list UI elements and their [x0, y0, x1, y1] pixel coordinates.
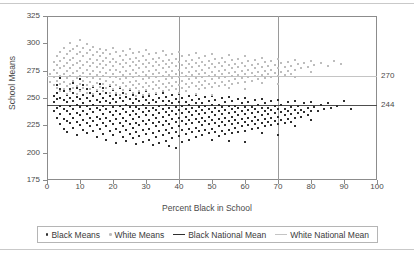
legend-item-label: White National Mean	[290, 230, 369, 240]
data-point	[132, 118, 134, 120]
data-point	[234, 78, 236, 80]
data-point	[122, 92, 124, 94]
data-point	[178, 101, 180, 103]
data-point	[310, 101, 312, 103]
data-point	[231, 100, 233, 102]
data-point	[300, 116, 302, 118]
data-point	[171, 118, 173, 120]
data-point	[105, 125, 107, 127]
data-point	[204, 96, 206, 98]
data-point	[211, 86, 213, 88]
data-point	[59, 60, 61, 62]
data-point	[125, 85, 127, 87]
data-point	[99, 48, 101, 50]
data-point	[129, 133, 131, 135]
data-point	[208, 60, 210, 62]
data-point	[175, 121, 177, 123]
data-point	[188, 54, 190, 56]
data-point	[89, 65, 91, 67]
data-point	[168, 89, 170, 91]
data-point	[175, 98, 177, 100]
data-point	[86, 69, 88, 71]
data-point	[105, 57, 107, 59]
data-point	[92, 70, 94, 72]
data-point	[247, 101, 249, 103]
x-tick-mark-60	[245, 180, 246, 184]
data-point	[155, 125, 157, 127]
data-point	[303, 111, 305, 113]
legend-item-2[interactable]: Black National Mean	[173, 230, 266, 240]
data-point	[234, 127, 236, 129]
data-point	[142, 120, 144, 122]
data-point	[185, 108, 187, 110]
data-point	[290, 65, 292, 67]
data-point	[89, 117, 91, 119]
data-point	[99, 71, 101, 73]
data-point	[66, 101, 68, 103]
data-point	[145, 82, 147, 84]
data-point	[244, 97, 246, 99]
data-point	[109, 102, 111, 104]
data-point	[155, 76, 157, 78]
data-point	[119, 105, 121, 107]
data-point	[247, 117, 249, 119]
legend-item-3[interactable]: White National Mean	[275, 230, 369, 240]
data-point	[145, 74, 147, 76]
data-point	[211, 111, 213, 113]
data-point	[66, 120, 68, 122]
data-point	[191, 74, 193, 76]
data-point	[92, 77, 94, 79]
data-point	[79, 75, 81, 77]
data-point	[69, 67, 71, 69]
data-point	[224, 84, 226, 86]
data-point	[251, 72, 253, 74]
legend-item-1[interactable]: White Means	[109, 230, 164, 240]
data-point	[115, 101, 117, 103]
data-point	[135, 64, 137, 66]
data-point	[224, 117, 226, 119]
data-point	[175, 73, 177, 75]
data-point	[66, 93, 68, 95]
data-point	[102, 87, 104, 89]
data-point	[79, 83, 81, 85]
data-point	[171, 70, 173, 72]
data-point	[129, 106, 131, 108]
data-point	[221, 130, 223, 132]
data-point	[195, 77, 197, 79]
data-point	[96, 66, 98, 68]
x-tick-label-30: 30	[134, 183, 158, 191]
data-point	[129, 98, 131, 100]
data-point	[109, 69, 111, 71]
data-point	[132, 102, 134, 104]
data-point	[201, 109, 203, 111]
data-point	[115, 61, 117, 63]
vertical-reference-line-70	[278, 16, 279, 180]
data-point	[135, 131, 137, 133]
data-point	[168, 132, 170, 134]
data-point	[112, 123, 114, 125]
data-point	[145, 133, 147, 135]
data-point	[148, 128, 150, 130]
data-point	[317, 110, 319, 112]
data-point	[208, 75, 210, 77]
data-point	[310, 119, 312, 121]
data-point	[132, 52, 134, 54]
data-point	[145, 107, 147, 109]
data-point	[145, 123, 147, 125]
data-point	[264, 70, 266, 72]
chart-legend: Black MeansWhite MeansBlack National Mea…	[37, 226, 378, 243]
data-point	[105, 87, 107, 89]
data-point	[56, 84, 58, 86]
legend-item-0[interactable]: Black Means	[46, 230, 100, 240]
data-point	[158, 130, 160, 132]
data-point	[168, 107, 170, 109]
data-point	[102, 90, 104, 92]
data-point	[244, 73, 246, 75]
data-point	[105, 64, 107, 66]
data-point	[92, 111, 94, 113]
data-point	[155, 109, 157, 111]
data-point	[109, 92, 111, 94]
data-point	[327, 102, 329, 104]
data-point	[122, 89, 124, 91]
data-point	[171, 94, 173, 96]
